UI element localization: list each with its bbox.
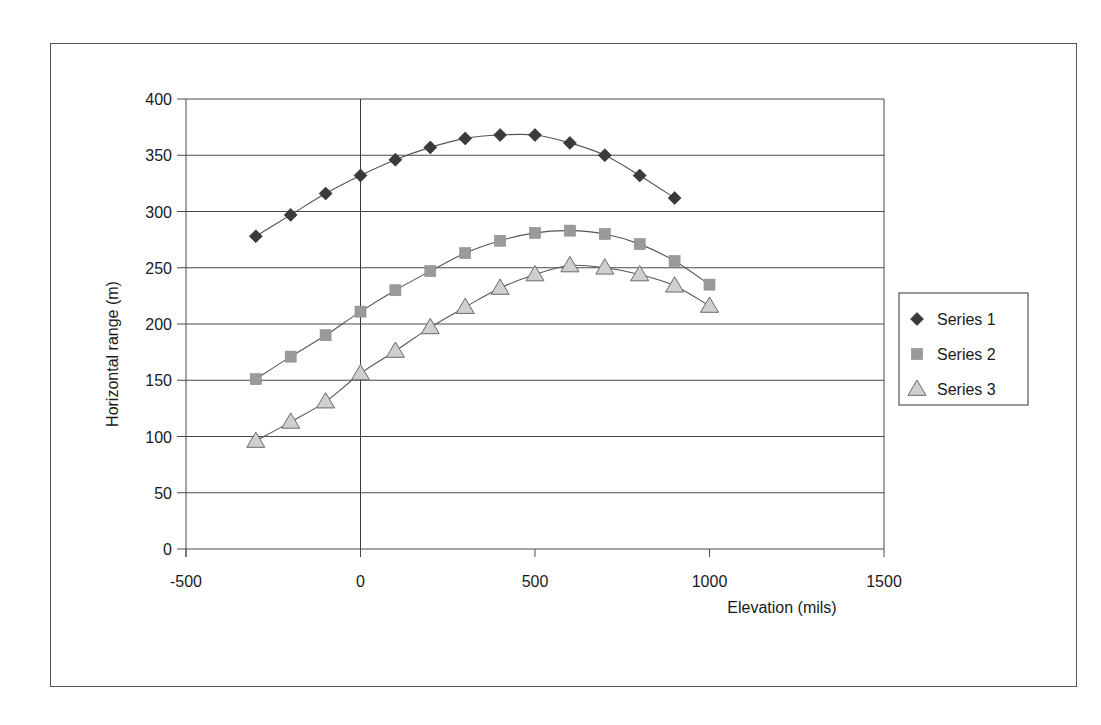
data-point [282, 413, 300, 428]
data-point [421, 318, 439, 333]
data-point [666, 277, 684, 292]
data-point [250, 374, 261, 385]
y-tick-label: 350 [145, 147, 172, 164]
data-point [633, 169, 646, 182]
data-point [425, 266, 436, 277]
data-point [319, 187, 332, 200]
data-point [669, 256, 680, 267]
series-1 [249, 129, 681, 243]
y-tick-label: 50 [154, 485, 172, 502]
data-point [529, 129, 542, 142]
data-point [352, 365, 370, 380]
legend-label: Series 2 [937, 346, 996, 363]
data-point [320, 330, 331, 341]
x-tick-label: 0 [356, 573, 365, 590]
y-tick-label: 300 [145, 204, 172, 221]
data-point [563, 136, 576, 149]
series-line [256, 231, 710, 380]
chart-canvas: 050100150200250300350400-500050010001500… [0, 0, 1101, 725]
y-tick-label: 250 [145, 260, 172, 277]
x-tick-label: 1500 [866, 573, 902, 590]
data-point [598, 149, 611, 162]
y-tick-label: 400 [145, 91, 172, 108]
series-line [256, 134, 675, 236]
data-point [247, 432, 265, 447]
legend-label: Series 1 [937, 311, 996, 328]
data-point [317, 393, 335, 408]
data-point [634, 239, 645, 250]
data-point [491, 279, 509, 294]
data-point [530, 227, 541, 238]
data-point [460, 248, 471, 259]
data-point [599, 229, 610, 240]
x-axis-title: Elevation (mils) [727, 599, 836, 616]
data-point [285, 351, 296, 362]
series-2 [250, 225, 715, 385]
data-point [564, 225, 575, 236]
x-tick-label: -500 [170, 573, 202, 590]
data-point [459, 132, 472, 145]
square-icon [912, 349, 923, 360]
data-point [284, 208, 297, 221]
data-point [704, 279, 715, 290]
data-point [355, 306, 366, 317]
gridlines [186, 99, 884, 549]
data-point [701, 297, 719, 312]
series-line [256, 265, 710, 441]
y-tick-label: 200 [145, 316, 172, 333]
y-axis-title: Horizontal range (m) [104, 281, 121, 427]
data-point [424, 141, 437, 154]
x-tick-label: 1000 [692, 573, 728, 590]
y-tick-label: 0 [163, 541, 172, 558]
y-tick-label: 150 [145, 372, 172, 389]
x-tick-label: 500 [522, 573, 549, 590]
data-point [668, 192, 681, 205]
legend-label: Series 3 [937, 381, 996, 398]
data-point [561, 257, 579, 272]
data-point [390, 285, 401, 296]
data-point [494, 129, 507, 142]
series-3 [247, 257, 719, 448]
tick-labels: 050100150200250300350400-500050010001500 [145, 91, 902, 590]
data-point [354, 169, 367, 182]
data-series [247, 129, 719, 448]
data-point [386, 342, 404, 357]
legend: Series 1Series 2Series 3 [899, 293, 1028, 405]
data-point [249, 230, 262, 243]
y-tick-label: 100 [145, 429, 172, 446]
data-point [495, 235, 506, 246]
axes [177, 99, 884, 557]
data-point [456, 298, 474, 313]
